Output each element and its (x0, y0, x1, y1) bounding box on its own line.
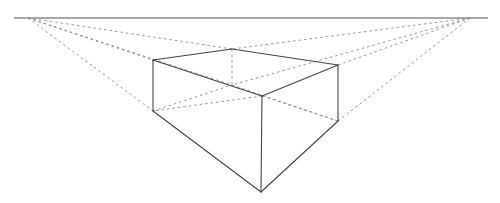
construction-guides (28, 18, 470, 121)
box-edge (153, 111, 261, 192)
box-edge (153, 49, 232, 60)
guide-line (28, 18, 232, 85)
guide-line (338, 18, 470, 121)
box-edge (261, 96, 262, 192)
box-edge (153, 60, 262, 96)
box-edges (153, 49, 338, 192)
perspective-diagram (0, 0, 500, 203)
guide-line (232, 18, 470, 49)
guide-line (232, 18, 470, 85)
hidden-edge (153, 85, 232, 111)
guide-line (28, 18, 153, 60)
guide-line (153, 96, 262, 111)
guide-line (262, 96, 338, 121)
box-edge (262, 65, 338, 96)
guide-line (28, 18, 153, 111)
guide-line (28, 18, 232, 49)
box-edge (261, 121, 338, 192)
guide-line (338, 18, 470, 65)
box-edge (232, 49, 338, 65)
hidden-edge (232, 85, 338, 121)
